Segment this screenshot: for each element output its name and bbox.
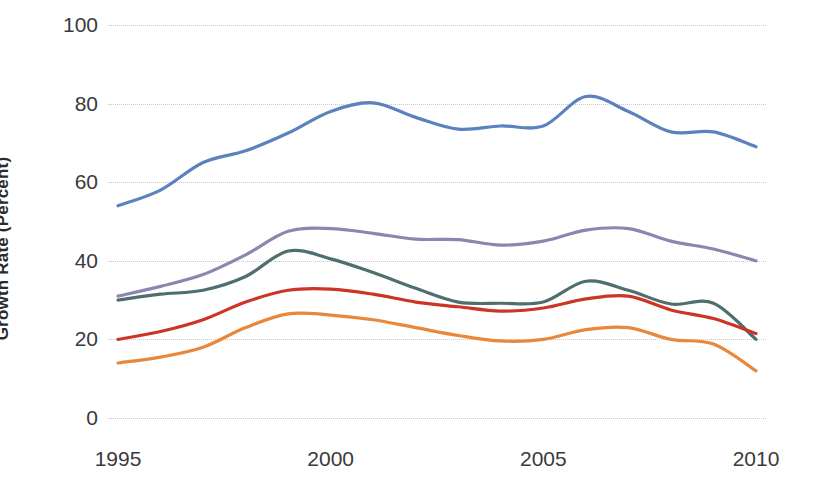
y-tick-label: 60 (38, 171, 98, 192)
y-axis-title-text: Growth Rate (Percent) (0, 157, 13, 341)
plot-area (108, 0, 768, 497)
x-axis-tick-labels: 1995200020052010 (0, 440, 813, 480)
y-tick-label: 100 (38, 14, 98, 35)
x-tick-label: 2000 (286, 448, 376, 469)
x-tick-label: 2010 (711, 448, 801, 469)
line-chart: Growth Rate (Percent) 100806040200 19952… (0, 0, 813, 497)
x-tick-label: 1995 (73, 448, 163, 469)
series-line-series-5-orange (118, 313, 756, 371)
series-line-series-2-purple (118, 228, 756, 296)
series-line-series-1-blue (118, 96, 756, 206)
y-tick-label: 40 (38, 250, 98, 271)
x-tick-label: 2005 (498, 448, 588, 469)
y-axis-tick-labels: 100806040200 (36, 0, 98, 497)
y-tick-label: 20 (38, 328, 98, 349)
y-tick-label: 80 (38, 93, 98, 114)
y-tick-label: 0 (38, 407, 98, 428)
y-axis-title: Growth Rate (Percent) (0, 0, 34, 497)
series-line-series-3-teal (118, 250, 756, 339)
series-lines (108, 0, 768, 497)
